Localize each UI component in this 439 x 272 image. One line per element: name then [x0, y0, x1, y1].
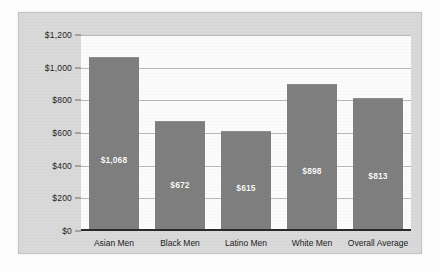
bar-group[interactable]: $672Black Men — [147, 35, 213, 231]
y-axis-tick-label: $800 — [52, 95, 72, 105]
chart-panel: $0$200$400$600$800$1,000$1,200 $1,068Asi… — [18, 12, 422, 254]
bar-value-label: $1,068 — [89, 155, 139, 165]
bar-chart-figure: $0$200$400$600$800$1,000$1,200 $1,068Asi… — [0, 0, 439, 272]
bar-value-label: $898 — [287, 166, 337, 176]
plot-area: $0$200$400$600$800$1,000$1,200 $1,068Asi… — [81, 35, 411, 231]
x-axis-line — [81, 229, 411, 231]
bar-value-label: $615 — [221, 183, 271, 193]
bar-group[interactable]: $898White Men — [279, 35, 345, 231]
bar-group[interactable]: $1,068Asian Men — [81, 35, 147, 231]
bar-group[interactable]: $813Overall Average — [345, 35, 411, 231]
y-axis-tick-label: $0 — [62, 226, 72, 236]
bar-value-label: $813 — [353, 171, 403, 181]
bar-rect[interactable]: $672 — [155, 121, 205, 231]
bar-rect[interactable]: $813 — [353, 98, 403, 231]
y-axis-tick-label: $400 — [52, 161, 72, 171]
y-axis-tick-label: $600 — [52, 128, 72, 138]
x-axis-category-label: Overall Average — [336, 238, 420, 248]
bars-layer: $1,068Asian Men$672Black Men$615Latino M… — [81, 35, 411, 231]
y-axis-tick-label: $200 — [52, 193, 72, 203]
bar-rect[interactable]: $615 — [221, 131, 271, 231]
bar-value-label: $672 — [155, 180, 205, 190]
y-axis-tick-label: $1,200 — [45, 30, 72, 40]
bar-group[interactable]: $615Latino Men — [213, 35, 279, 231]
y-axis-tick-label: $1,000 — [45, 63, 72, 73]
bar-rect[interactable]: $898 — [287, 84, 337, 231]
bar-rect[interactable]: $1,068 — [89, 57, 139, 231]
